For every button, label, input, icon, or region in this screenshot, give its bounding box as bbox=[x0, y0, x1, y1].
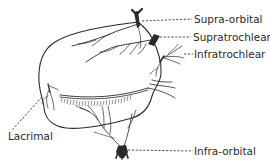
label-lacrimal: Lacrimal bbox=[8, 130, 53, 142]
labels: Supra-orbital Supratrochlear Infratrochl… bbox=[8, 13, 270, 157]
label-infratrochlear: Infratrochlear bbox=[194, 48, 266, 60]
label-infra-orbital: Infra-orbital bbox=[194, 145, 256, 157]
infra-orbital-nerve bbox=[76, 106, 136, 159]
supra-orbital-nerve bbox=[72, 9, 142, 48]
label-supratrochlear: Supratrochlear bbox=[193, 31, 270, 43]
label-supra-orbital: Supra-orbital bbox=[194, 13, 263, 25]
supratrochlear-nerve bbox=[86, 34, 160, 62]
eyelid-nerve-diagram: Supra-orbital Supratrochlear Infratrochl… bbox=[0, 0, 270, 167]
infratrochlear-nerve bbox=[150, 44, 184, 76]
